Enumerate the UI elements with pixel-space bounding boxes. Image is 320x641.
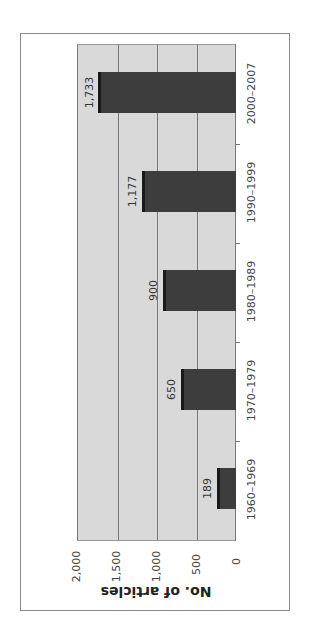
value-label: 1,733 [83,76,96,110]
value-tick-label: 0 [230,542,243,582]
category-tick [236,342,240,343]
category-label: 1960–1969 [245,455,258,525]
value-tick-label: 2,000 [70,547,83,587]
value-tick-label: 1,500 [110,547,123,587]
value-label: 189 [201,472,214,506]
bar-1980-1989 [163,270,236,311]
category-tick [236,243,240,244]
category-tick [236,441,240,442]
category-tick [236,144,240,145]
value-tick-label: 500 [190,545,203,585]
bar-1990-1999 [142,171,236,212]
bar-2000-2007 [98,72,236,113]
category-label: 1970–1979 [245,356,258,426]
category-label: 2000–2007 [245,59,258,129]
category-label: 1990–1999 [245,158,258,228]
bar-1970-1979 [181,369,236,410]
value-label: 1,177 [126,175,139,209]
gridline-1500 [118,45,119,540]
value-axis-title: No. of articles [96,584,216,600]
value-label: 650 [165,373,178,407]
value-tick-label: 1,000 [150,547,163,587]
bar-1960-1969 [217,468,236,509]
category-label: 1980–1989 [245,257,258,327]
value-label: 900 [147,274,160,308]
